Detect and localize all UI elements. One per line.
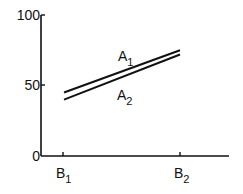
series-label-a2: A2 xyxy=(117,87,132,107)
y-tick-label-50: 50 xyxy=(24,77,40,93)
x-tick-label-b1: B1 xyxy=(56,165,71,185)
chart: 100 50 0 B1 B2 A1 A2 xyxy=(0,0,243,194)
series-label-a1: A1 xyxy=(118,48,133,68)
x-tick-label-b2: B2 xyxy=(174,165,189,185)
y-tick-label-100: 100 xyxy=(17,7,41,23)
y-tick-label-0: 0 xyxy=(32,148,40,164)
